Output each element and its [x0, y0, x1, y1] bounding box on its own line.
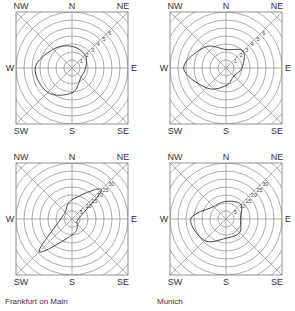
ring-label: 10 — [240, 203, 246, 209]
compass-label-ne: NE — [271, 1, 284, 11]
compass-label-nw: NW — [14, 152, 29, 162]
ring-label: 25 — [256, 187, 262, 193]
ring-label: 3 — [91, 47, 94, 53]
wind-rose-2: 123456NNEESESSWWNW — [154, 0, 295, 140]
ring-label: 20 — [97, 192, 103, 198]
compass-label-n: N — [223, 1, 230, 11]
compass-label-s: S — [223, 126, 229, 136]
compass-label-ne: NE — [117, 152, 130, 162]
ring-label: 20 — [251, 192, 257, 198]
ring-label: 2 — [86, 52, 89, 58]
compass-label-sw: SW — [14, 277, 29, 287]
compass-label-nw: NW — [168, 1, 183, 11]
wind-frequency-curve — [191, 201, 242, 242]
compass-label-n: N — [69, 152, 76, 162]
compass-label-e: E — [131, 214, 137, 224]
ring-label: 25 — [102, 187, 108, 193]
wind-rose-3: 51015202530NNEESESSWWNW — [0, 147, 144, 291]
ring-label: 3 — [245, 47, 248, 53]
ring-label: 2 — [240, 52, 243, 58]
wind-frequency-curve — [184, 46, 245, 89]
compass-label-sw: SW — [168, 277, 183, 287]
caption-frankfurt: Frankfurt on Main — [5, 297, 68, 306]
ring-label: 5 — [102, 36, 105, 42]
compass-label-e: E — [285, 63, 291, 73]
ring-label: 5 — [80, 209, 83, 215]
compass-label-n: N — [69, 1, 76, 11]
compass-label-nw: NW — [168, 152, 183, 162]
compass-label-nw: NW — [14, 1, 29, 11]
compass-label-s: S — [223, 277, 229, 287]
compass-label-w: W — [160, 63, 169, 73]
wind-rose-1: 123456NNEESESSWWNW — [0, 0, 144, 140]
ring-label: 4 — [97, 41, 100, 47]
compass-label-se: SE — [117, 126, 129, 136]
ring-label: 6 — [108, 30, 111, 36]
caption-munich: Munich — [157, 297, 183, 306]
compass-label-e: E — [131, 63, 137, 73]
ring-label: 5 — [234, 209, 237, 215]
compass-label-sw: SW — [14, 126, 29, 136]
ring-label: 4 — [251, 41, 254, 47]
ring-label: 10 — [86, 203, 92, 209]
compass-label-ne: NE — [271, 152, 284, 162]
compass-label-se: SE — [271, 126, 283, 136]
ring-label: 1 — [234, 58, 237, 64]
ring-label: 5 — [256, 36, 259, 42]
compass-label-s: S — [69, 126, 75, 136]
ring-label: 6 — [262, 30, 265, 36]
ring-label: 30 — [262, 181, 268, 187]
ring-label: 1 — [80, 58, 83, 64]
compass-label-n: N — [223, 152, 230, 162]
ring-label: 15 — [91, 198, 97, 204]
wind-rose-charts: 123456NNEESESSWWNW123456NNEESESSWWNW5101… — [0, 0, 295, 311]
ring-label: 30 — [108, 181, 114, 187]
compass-label-e: E — [285, 214, 291, 224]
compass-label-sw: SW — [168, 126, 183, 136]
compass-label-se: SE — [117, 277, 129, 287]
compass-label-se: SE — [271, 277, 283, 287]
ring-label: 15 — [245, 198, 251, 204]
compass-label-w: W — [160, 214, 169, 224]
wind-rose-4: 51015202530NNEESESSWWNW — [154, 147, 295, 291]
compass-label-s: S — [69, 277, 75, 287]
compass-label-ne: NE — [117, 1, 130, 11]
compass-label-w: W — [6, 63, 15, 73]
compass-label-w: W — [6, 214, 15, 224]
